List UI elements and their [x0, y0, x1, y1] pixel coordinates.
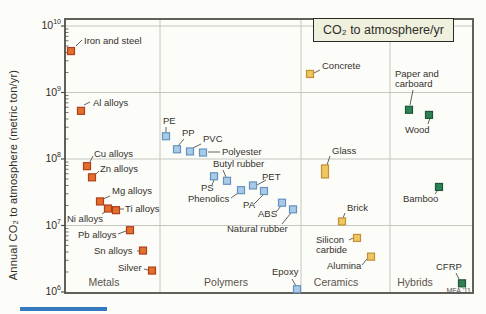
marker-wood [426, 111, 433, 118]
marker-pb-alloys [127, 227, 134, 234]
marker-ti-alloys [113, 207, 120, 214]
label-cfrp: CFRP [436, 262, 462, 272]
legend-box: CO₂ to atmosphere/yr [313, 18, 454, 42]
label-pvc: PVC [203, 134, 223, 144]
marker-pa [261, 188, 268, 195]
marker-pe [163, 133, 170, 140]
marker-bamboo [436, 183, 443, 190]
marker-zn-alloys [89, 174, 96, 181]
label-natural-rubber: Natural rubber [227, 224, 288, 234]
y-tick-label-1e7: 107 [25, 218, 61, 231]
marker-abs [279, 199, 286, 206]
marker-concrete [307, 70, 314, 77]
category-label-polymers: Polymers [204, 276, 248, 288]
leader-silver [144, 269, 148, 270]
marker-silver [149, 267, 156, 274]
plot-canvas [0, 0, 486, 314]
marker-mg-alloys [97, 198, 104, 205]
label-paper-and-carboard: Paper and carboard [395, 69, 439, 89]
label-epoxy: Epoxy [272, 267, 298, 277]
category-label-ceramics: Ceramics [314, 276, 358, 288]
label-butyl-rubber: Butyl rubber [213, 159, 264, 169]
label-brick: Brick [347, 203, 368, 213]
y-tick-label-1e6: 106 [25, 284, 61, 297]
leader-butyl-rubber [223, 170, 226, 177]
label-ni-alloys: Ni alloys [67, 214, 103, 224]
y-tick-label-1e9: 109 [25, 85, 61, 98]
label-pe: PE [163, 116, 176, 126]
label-cu-alloys: Cu alloys [94, 149, 133, 159]
marker-paper-and-carboard [406, 106, 413, 113]
label-glass: Glass [332, 146, 356, 156]
leader-pa [254, 195, 263, 204]
marker-iron-and-steel [68, 48, 75, 55]
scan-artifact-blue-line [20, 307, 107, 311]
co2-scatter-chart: Annual CO₂ to atmosphere (metric ton/yr)… [0, 0, 486, 314]
leader-glass [327, 156, 330, 165]
leader-silicon-carbide [349, 238, 353, 240]
marker-polyester [200, 149, 207, 156]
leader-alumina [362, 259, 367, 265]
attribution-text: MFA '11 [430, 287, 471, 294]
label-pb-alloys: Pb alloys [78, 230, 117, 240]
leader-brick [343, 213, 345, 218]
category-label-metals: Metals [89, 276, 120, 288]
leader-zn-alloys [96, 171, 99, 174]
marker-pet [250, 182, 257, 189]
leader-epoxy [292, 279, 296, 286]
marker-cu-alloys [84, 163, 91, 170]
marker-pp [174, 146, 181, 153]
leader-pp [178, 139, 184, 146]
label-ps: PS [201, 183, 214, 193]
marker-brick [339, 218, 346, 225]
category-label-hybrids: Hybrids [397, 276, 433, 288]
marker-glass [322, 165, 329, 178]
marker-phenolics [238, 187, 245, 194]
leader-cfrp [456, 273, 459, 279]
legend-label: CO₂ to atmosphere/yr [323, 23, 444, 37]
leader-concrete [314, 70, 320, 73]
label-alumina: Alumina [327, 261, 361, 271]
marker-ps [211, 173, 218, 180]
marker-silicon-carbide [354, 234, 361, 241]
label-iron-and-steel: Iron and steel [84, 36, 142, 46]
label-pet: PET [262, 172, 280, 182]
marker-epoxy [294, 286, 301, 293]
y-tick-label-1e10: 1010 [25, 18, 61, 31]
label-pp: PP [182, 128, 195, 138]
marker-butyl-rubber [224, 177, 231, 184]
label-concrete: Concrete [322, 61, 361, 71]
marker-ni-alloys [105, 205, 112, 212]
leader-iron-and-steel [76, 40, 82, 46]
label-silver: Silver [118, 263, 142, 273]
y-tick-label-1e8: 108 [25, 151, 61, 164]
label-silicon-carbide: Silicon carbide [316, 235, 347, 255]
leader-pvc [193, 144, 201, 148]
marker-al-alloys [78, 107, 85, 114]
scanned-figure-page: Annual CO₂ to atmosphere (metric ton/yr)… [0, 0, 486, 314]
marker-cfrp [459, 280, 466, 287]
label-mg-alloys: Mg alloys [112, 186, 152, 196]
label-ti-alloys: Ti alloys [125, 204, 160, 214]
marker-natural-rubber [290, 206, 297, 213]
label-polyester: Polyester [222, 147, 262, 157]
marker-alumina [368, 253, 375, 260]
label-wood: Wood [405, 125, 430, 135]
leader-pb-alloys [118, 231, 126, 234]
label-phenolics: Phenolics [188, 194, 229, 204]
y-axis-label: Annual CO₂ to atmosphere (metric ton/yr) [7, 70, 19, 280]
label-al-alloys: Al alloys [93, 98, 128, 108]
marker-sn-alloys [140, 247, 147, 254]
leader-al-alloys [84, 102, 90, 105]
label-zn-alloys: Zn alloys [100, 164, 138, 174]
label-sn-alloys: Sn alloys [94, 246, 133, 256]
label-abs: ABS [258, 209, 277, 219]
label-bamboo: Bamboo [403, 194, 438, 204]
label-pa: PA [243, 200, 255, 210]
marker-pvc [187, 148, 194, 155]
